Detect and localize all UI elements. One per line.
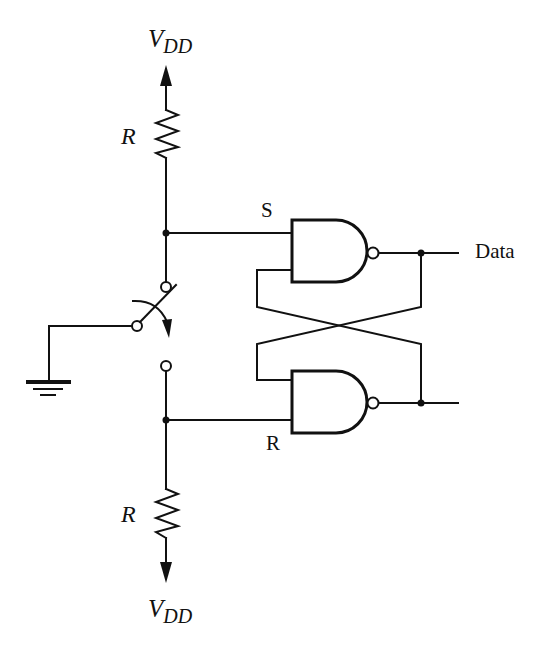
nand-gate-top-icon xyxy=(292,220,379,282)
resistor-top-label: R xyxy=(121,124,136,148)
reset-input-label: R xyxy=(266,433,280,454)
schematic-graphics xyxy=(0,0,547,655)
vdd-top-arrow-icon xyxy=(160,65,172,110)
resistor-top-icon xyxy=(156,110,178,158)
resistor-bottom-icon xyxy=(156,489,178,538)
vdd-bottom-arrow-icon xyxy=(160,538,172,583)
vdd-top-label: VDD xyxy=(148,26,192,51)
resistor-bottom-label: R xyxy=(121,502,136,526)
nand-gate-bottom-icon xyxy=(292,371,379,433)
set-input-label: S xyxy=(261,200,273,221)
spdt-switch-icon xyxy=(132,282,176,371)
data-output-label: Data xyxy=(475,241,515,262)
circuit-diagram: VDD R S Data R R VDD xyxy=(0,0,547,655)
ground-icon xyxy=(26,326,132,395)
vdd-bottom-label: VDD xyxy=(148,596,192,621)
